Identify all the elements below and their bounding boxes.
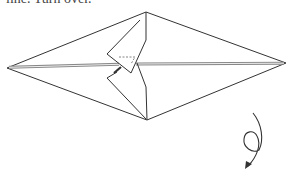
lower-flap bbox=[107, 63, 147, 120]
hidden-edge bbox=[119, 57, 135, 64]
turn-over-arrow-icon bbox=[244, 113, 262, 169]
center-crease bbox=[9, 63, 284, 67]
origami-diagram bbox=[0, 0, 292, 175]
